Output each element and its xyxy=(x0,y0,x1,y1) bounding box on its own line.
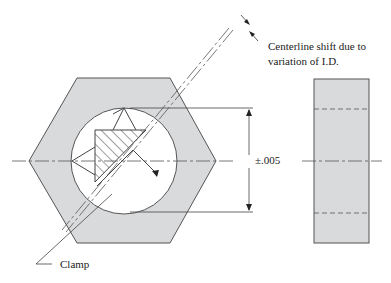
clamp-label: Clamp xyxy=(60,258,89,271)
tolerance-label: ±.005 xyxy=(254,154,281,167)
centerline-note-line1: Centerline shift due to xyxy=(268,40,366,53)
centerline-shift-arrows xyxy=(241,15,258,41)
front-view xyxy=(12,28,236,264)
centerline-note-line2: variation of I.D. xyxy=(268,55,339,68)
side-view xyxy=(302,79,382,243)
